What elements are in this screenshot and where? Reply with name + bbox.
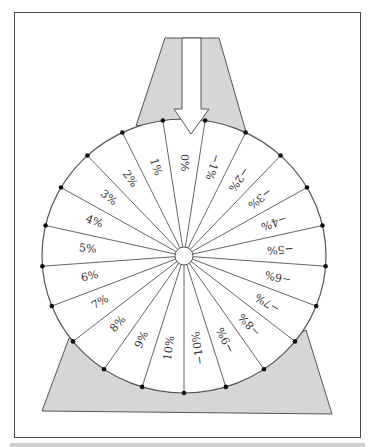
wheel-diagram: 0%−1%−2%−3%−4%−5%−6%−7%−8%−9%−10%10%9%8%… (0, 0, 375, 447)
wheel-hub (175, 247, 193, 265)
segment-label: 5% (79, 241, 97, 255)
segment-label: −5% (267, 242, 295, 257)
segment-label: 0% (178, 154, 191, 171)
